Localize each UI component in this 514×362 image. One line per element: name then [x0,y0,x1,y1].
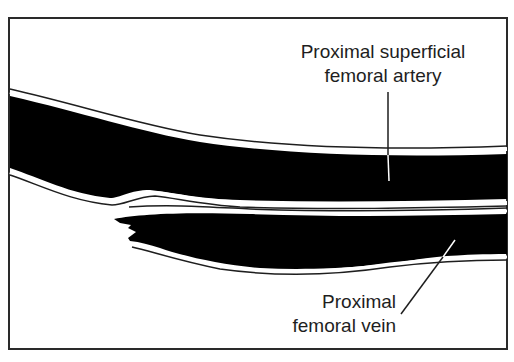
vein-label-line1: Proximal [268,290,396,314]
artery-label-line1: Proximal superficial [290,40,476,64]
diagram-figure: Proximal superficial femoral artery Prox… [0,0,514,362]
vein-label-line2: femoral vein [268,314,396,338]
artery-label-line2: femoral artery [290,64,476,88]
vein-label: Proximal femoral vein [268,290,396,338]
artery-leader-line-inner [388,155,389,181]
artery-label: Proximal superficial femoral artery [290,40,476,88]
